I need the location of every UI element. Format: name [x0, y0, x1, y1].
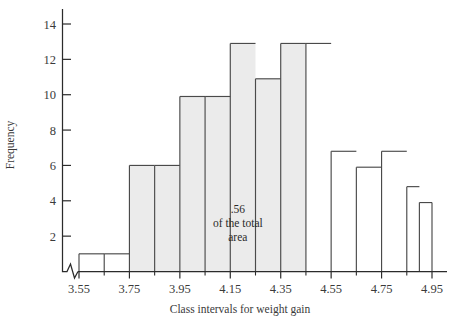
annotation-line: of the total	[213, 217, 263, 229]
y-axis	[63, 9, 72, 262]
y-tick-label: 10	[44, 88, 57, 102]
histogram-bar	[79, 254, 104, 272]
histogram-bar	[331, 151, 356, 271]
x-tick-label: 3.75	[118, 282, 140, 296]
x-tick-label: 4.75	[371, 282, 393, 296]
y-tick-label: 2	[50, 230, 56, 244]
x-tick-label: 4.15	[219, 282, 241, 296]
histogram-figure: 2468101214 3.553.753.954.154.354.554.754…	[0, 0, 456, 328]
x-tick-label: 4.95	[421, 282, 443, 296]
x-tick-labels: 3.553.753.954.154.354.554.754.95	[68, 282, 443, 296]
histogram-bar	[306, 43, 331, 271]
histogram-bar	[129, 165, 154, 271]
x-axis	[78, 272, 447, 279]
y-tick-label: 4	[50, 194, 57, 208]
histogram-bar	[407, 187, 420, 272]
y-axis-title: Frequency	[4, 120, 17, 169]
y-tick-label: 14	[44, 18, 57, 32]
y-tick-labels: 2468101214	[44, 18, 57, 244]
histogram-bar	[205, 96, 230, 271]
x-tick-marks	[79, 272, 432, 279]
annotation-line: .56	[231, 203, 246, 215]
histogram-bar	[256, 79, 281, 272]
x-axis-title: Class intervals for weight gain	[170, 303, 311, 316]
y-tick-label: 12	[44, 53, 57, 67]
histogram-bar	[382, 151, 407, 271]
x-tick-label: 4.55	[320, 282, 342, 296]
y-tick-label: 6	[50, 159, 56, 173]
histogram-plot: 2468101214 3.553.753.954.154.354.554.754…	[0, 0, 456, 328]
x-tick-label: 4.35	[270, 282, 292, 296]
histogram-bar	[155, 165, 180, 271]
y-tick-marks	[63, 24, 72, 236]
histogram-bar	[356, 167, 381, 271]
x-tick-label: 3.55	[68, 282, 90, 296]
annotation-line: area	[228, 231, 247, 243]
histogram-bar	[104, 254, 129, 272]
histogram-bar	[281, 43, 306, 271]
axis-break-zigzag	[63, 262, 79, 278]
y-tick-label: 8	[50, 124, 56, 138]
histogram-bar	[180, 96, 205, 271]
x-tick-label: 3.95	[169, 282, 191, 296]
histogram-bar	[419, 203, 432, 272]
